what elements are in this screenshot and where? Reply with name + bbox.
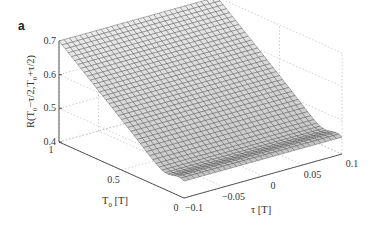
tau-tick-label: 0.1: [346, 158, 359, 169]
z-tick-label: 0.7: [44, 35, 57, 46]
t0-tick-label: 1: [49, 144, 54, 155]
surface-plot: 0.40.50.60.710.50−0.1−0.0500.050.1 T0 [T…: [0, 0, 378, 226]
tau-tick-label: 0: [271, 180, 276, 191]
z-axis-label: R(T0−τ/2,T0+τ/2): [25, 54, 39, 128]
t0-tick-label: 0.5: [107, 174, 120, 185]
t0-axis-label: T0 [T]: [102, 195, 128, 209]
tau-tick-label: −0.1: [185, 202, 203, 213]
z-tick-label: 0.5: [44, 102, 57, 113]
z-tick-label: 0.6: [44, 69, 57, 80]
mesh-surface: [59, 0, 342, 181]
t0-tick-label: 0: [174, 202, 179, 213]
tau-tick-label: −0.05: [222, 191, 245, 202]
tau-tick-label: 0.05: [304, 169, 322, 180]
tau-axis-label: τ [T]: [251, 204, 271, 215]
